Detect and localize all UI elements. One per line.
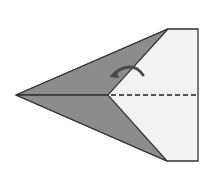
- folding-diagram: [0, 0, 206, 186]
